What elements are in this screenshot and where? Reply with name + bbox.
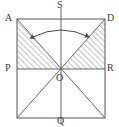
vertex-label-p: P bbox=[5, 63, 11, 73]
axis-label-s: S bbox=[57, 0, 63, 10]
vertex-label-d: D bbox=[107, 13, 114, 23]
figure-canvas bbox=[0, 0, 119, 127]
axis-label-q: Q bbox=[57, 116, 64, 126]
vertex-label-a: A bbox=[5, 13, 12, 23]
center-label-o: O bbox=[56, 73, 63, 83]
vertex-label-r: R bbox=[107, 63, 114, 73]
geometry-figure: A D S P R O Q bbox=[0, 0, 119, 127]
